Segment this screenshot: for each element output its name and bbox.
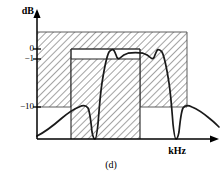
y-tick-label-0: 0 (22, 44, 34, 53)
y-tick-label-minus10: −10 (12, 102, 34, 111)
y-axis-label: dB (22, 6, 37, 16)
y-tick-label-minus1: −1 (18, 54, 34, 63)
figure-container: dB 0 −1 −10 kHz (d) (0, 0, 222, 177)
figure-caption: (d) (105, 160, 117, 170)
x-axis-label: kHz (168, 146, 186, 156)
filter-response-plot (0, 0, 222, 177)
